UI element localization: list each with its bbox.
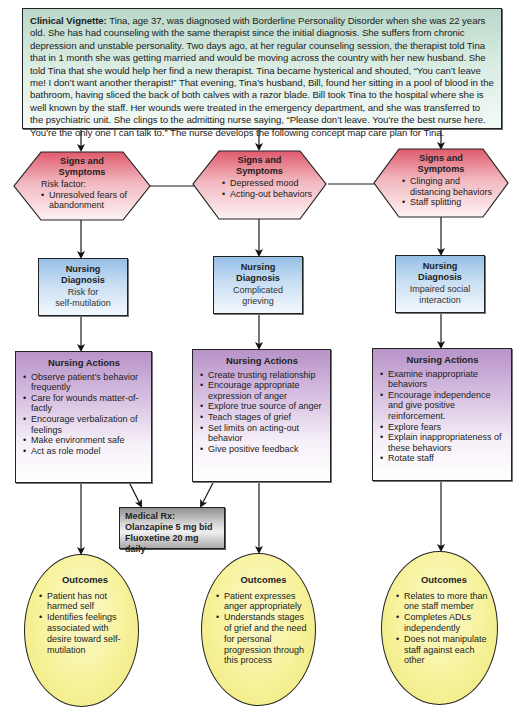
action-item: Create trusting relationship [200,370,324,381]
signs-intro: Risk factor: [41,179,137,190]
outcome-item: Completes ADLs independently [396,612,492,634]
outcomes-title: Outcomes [396,575,492,586]
medical-rx-title: Medical Rx: [125,511,219,522]
outcome-item: Relates to more than one staff member [396,591,492,613]
actions-title: Nursing Actions [380,355,505,366]
signs-symptoms-3: Signs and Symptoms Clinging and distanci… [373,148,509,218]
outcome-item: Does not manipulate staff against each o… [396,634,492,666]
diagnosis-text: Impaired social interaction [396,284,484,306]
diagnosis-text: Complicated grieving [214,285,302,307]
diagnosis-title: Nursing Diagnosis [396,261,484,282]
nursing-actions-3: Nursing Actions Examine inappropriate be… [372,348,512,481]
signs-symptoms-1: Signs and Symptoms Risk factor: Unresolv… [13,151,151,221]
action-item: Examine inappropriate behaviors [380,369,505,390]
signs-item: Acting-out behaviors [222,189,317,200]
diagnosis-text: Risk for self-mutilation [39,287,127,309]
actions-title: Nursing Actions [23,358,145,369]
nursing-diagnosis-2: Nursing Diagnosis Complicated grieving [213,256,303,314]
clinical-vignette: Clinical Vignette: Tina, age 37, was dia… [22,8,502,129]
action-item: Act as role model [23,446,145,457]
nursing-diagnosis-3: Nursing Diagnosis Impaired social intera… [395,255,485,313]
action-item: Observe patient’s behavior frequently [23,372,145,393]
signs-item: Staff splitting [402,197,493,208]
action-item: Encourage independence and give positive… [380,390,505,422]
action-item: Explore true source of anger [200,401,324,412]
signs-item: Clinging and distancing behaviors [402,176,493,197]
nursing-actions-2: Nursing Actions Create trusting relation… [192,349,331,482]
outcome-item: Understands stages of grief and the need… [216,612,311,666]
outcome-item: Identifies feelings associated with desi… [39,612,131,655]
outcomes-title: Outcomes [216,575,311,586]
action-item: Explore fears [380,422,505,433]
action-item: Explain inappropriateness of these behav… [380,432,505,453]
medical-rx-line: Fluoxetine 20 mg daily [125,533,219,555]
outcomes-3: Outcomes Relates to more than one staff … [381,551,498,705]
nursing-diagnosis-1: Nursing Diagnosis Risk for self-mutilati… [38,258,128,316]
signs-title: Signs and Symptoms [192,155,327,176]
signs-symptoms-2: Signs and Symptoms Depressed mood Acting… [192,150,327,220]
outcomes-2: Outcomes Patient expresses anger appropr… [201,553,316,706]
action-item: Teach stages of grief [200,412,324,423]
medical-rx-box: Medical Rx: Olanzapine 5 mg bid Fluoxeti… [119,507,225,549]
signs-title: Signs and Symptoms [13,156,151,177]
action-item: Care for wounds matter-of-factly [23,393,145,414]
action-item: Make environment safe [23,435,145,446]
action-item: Give positive feedback [200,444,324,455]
vignette-text: Tina, age 37, was diagnosed with Borderl… [30,15,494,138]
signs-item: Unresolved fears of abandonment [41,190,137,211]
signs-title: Signs and Symptoms [373,153,509,174]
outcome-item: Patient expresses anger appropriately [216,591,311,613]
vignette-label: Clinical Vignette: [30,15,107,26]
outcome-item: Patient has not harmed self [39,591,131,613]
action-item: Rotate staff [380,453,505,464]
outcomes-1: Outcomes Patient has not harmed self Ide… [24,554,139,707]
signs-item: Depressed mood [222,178,317,189]
actions-title: Nursing Actions [200,356,324,367]
medical-rx-line: Olanzapine 5 mg bid [125,522,219,533]
diagnosis-title: Nursing Diagnosis [39,264,127,285]
action-item: Encourage appropriate expression of ange… [200,380,324,401]
diagnosis-title: Nursing Diagnosis [214,262,302,283]
nursing-actions-1: Nursing Actions Observe patient’s behavi… [15,351,152,483]
outcomes-title: Outcomes [39,575,131,586]
action-item: Encourage verbalization of feelings [23,414,145,435]
action-item: Set limits on acting-out behavior [200,423,324,444]
